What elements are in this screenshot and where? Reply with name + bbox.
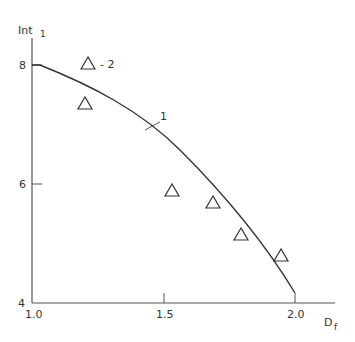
x-axis-label-sub: f	[334, 322, 338, 332]
triangle-marker	[165, 184, 179, 196]
triangle-marker	[274, 249, 288, 261]
x-axis-label: D	[324, 316, 332, 329]
legend-label: - 2	[100, 58, 114, 71]
y-tick-label-4: 4	[18, 297, 25, 310]
x-tick-label-2.0: 2.0	[287, 308, 305, 321]
triangle-marker	[78, 97, 92, 109]
x-tick-label-1.5: 1.5	[156, 308, 174, 321]
curve-1	[32, 65, 295, 293]
curve-label: 1	[160, 110, 167, 123]
y-axis-label: Int	[18, 24, 33, 37]
curve-label-leader	[145, 122, 160, 130]
chart: Int 1 D f 4 6 8 1.0 1.5 2.0 1 - 2	[0, 0, 355, 342]
y-tick-label-6: 6	[19, 178, 26, 191]
triangle-marker	[234, 228, 248, 240]
legend-triangle-icon	[81, 57, 95, 69]
triangle-marker	[206, 196, 220, 208]
x-tick-label-1.0: 1.0	[25, 308, 43, 321]
y-axis-label-sub: 1	[40, 29, 46, 39]
y-tick-label-8: 8	[19, 59, 26, 72]
